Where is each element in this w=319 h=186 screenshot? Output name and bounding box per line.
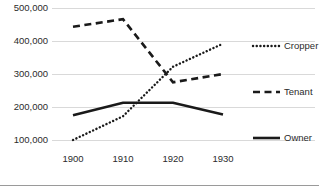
- chart-legend: CropperTenantOwner: [253, 40, 318, 143]
- series-lines: [73, 19, 223, 140]
- legend-label-owner: Owner: [284, 132, 312, 143]
- x-tick-label-1930: 1930: [212, 153, 233, 164]
- gridlines: [52, 9, 315, 141]
- y-tick-label-500000: 500,000: [14, 2, 48, 13]
- y-tick-label-400000: 400,000: [14, 35, 48, 46]
- series-line-owner: [73, 103, 223, 116]
- y-tick-label-200000: 200,000: [14, 101, 48, 112]
- x-tick-label-1910: 1910: [112, 153, 133, 164]
- legend-label-tenant: Tenant: [284, 86, 313, 97]
- chart-canvas: 100,000200,000300,000400,000500,000 1900…: [0, 0, 319, 186]
- series-line-tenant: [73, 19, 223, 82]
- x-axis-tick-labels: 1900191019201930: [62, 153, 233, 164]
- x-tick-label-1920: 1920: [162, 153, 183, 164]
- series-line-cropper: [73, 44, 223, 140]
- y-axis-tick-labels: 100,000200,000300,000400,000500,000: [14, 2, 48, 145]
- y-tick-label-100000: 100,000: [14, 134, 48, 145]
- line-chart: 100,000200,000300,000400,000500,000 1900…: [0, 0, 319, 186]
- legend-label-cropper: Cropper: [284, 40, 318, 51]
- x-tick-label-1900: 1900: [62, 153, 83, 164]
- y-tick-label-300000: 300,000: [14, 68, 48, 79]
